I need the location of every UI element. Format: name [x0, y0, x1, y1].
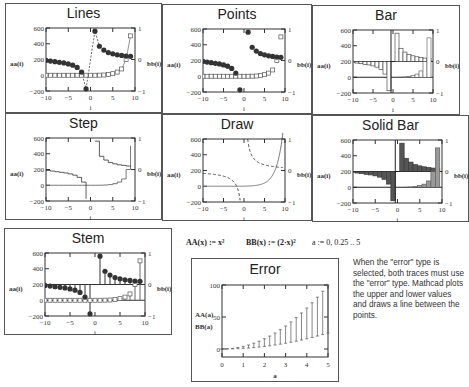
svg-text:1: 1 — [436, 27, 440, 35]
svg-text:0: 0 — [40, 297, 44, 305]
svg-text:5: 5 — [418, 206, 422, 214]
svg-text:600: 600 — [33, 250, 44, 258]
svg-text:a: a — [273, 372, 277, 380]
svg-text:200: 200 — [341, 58, 352, 66]
svg-text:0: 0 — [41, 72, 45, 80]
error-type-note: When the "error" type is selected, both … — [353, 258, 465, 321]
svg-text:1: 1 — [138, 135, 142, 143]
range-definition[interactable]: a := 0, 0.25 .. 5 — [312, 238, 360, 247]
svg-text:−1: −1 — [445, 200, 453, 208]
svg-text:−10: −10 — [198, 95, 209, 103]
step-plot[interactable]: 6004002000−20010−1−10−50510iaa(i)bb(i) — [6, 114, 163, 221]
svg-text:100: 100 — [210, 282, 221, 290]
svg-text:0: 0 — [288, 57, 292, 65]
svg-text:3: 3 — [284, 361, 288, 369]
draw-plot-panel[interactable]: Draw 6004002000−20010−1−10−50510iaa(i)bb… — [162, 114, 312, 221]
legend-bb: bb(i) — [147, 170, 162, 178]
svg-text:50: 50 — [213, 314, 221, 322]
bb-definition[interactable]: BB(x) := (2·x)² — [246, 238, 296, 247]
svg-text:10: 10 — [430, 96, 438, 104]
svg-text:0: 0 — [41, 182, 45, 190]
stem-plot-panel[interactable]: Stem 6004002000−20010−1−10−50510iaa(i)bb… — [4, 228, 172, 335]
lines-plot[interactable]: 6004002000−20010−1−10−50510iaa(i)bb(i) — [6, 4, 163, 114]
svg-text:600: 600 — [191, 136, 202, 144]
svg-text:BB(a): BB(a) — [195, 323, 213, 331]
svg-text:−1: −1 — [288, 89, 296, 97]
svg-text:200: 200 — [191, 167, 202, 175]
svg-text:−10: −10 — [40, 319, 51, 327]
draw-plot[interactable]: 6004002000−20010−1−10−50510iaa(i)bb(i) — [163, 115, 313, 222]
svg-text:200: 200 — [34, 56, 45, 64]
legend-aa: aa(i) — [10, 170, 24, 178]
svg-text:0: 0 — [148, 281, 152, 289]
legend-bb: bb(i) — [157, 285, 172, 293]
svg-text:5: 5 — [111, 204, 115, 212]
svg-text:0: 0 — [217, 346, 221, 354]
svg-text:0: 0 — [242, 95, 246, 103]
svg-text:400: 400 — [341, 152, 352, 160]
aa-definition[interactable]: AA(x) := x² — [186, 238, 225, 247]
legend-aa: aa(i) — [9, 285, 23, 293]
svg-text:AA(a): AA(a) — [195, 311, 214, 319]
svg-text:0: 0 — [220, 361, 224, 369]
svg-text:0: 0 — [89, 94, 93, 102]
svg-text:600: 600 — [191, 26, 202, 34]
svg-text:5: 5 — [111, 94, 115, 102]
svg-text:600: 600 — [341, 137, 352, 145]
svg-text:200: 200 — [191, 57, 202, 65]
svg-text:5: 5 — [326, 361, 330, 369]
stem-plot[interactable]: 6004002000−20010−1−10−50510iaa(i)bb(i) — [5, 229, 173, 336]
x-axis-label: i — [90, 214, 92, 222]
solidbar-plot-panel[interactable]: Solid Bar 6004002000−20010−1−10−50510iaa… — [312, 115, 469, 222]
svg-text:0: 0 — [138, 166, 142, 174]
svg-text:400: 400 — [341, 42, 352, 50]
svg-text:0: 0 — [89, 204, 93, 212]
x-axis-label: i — [392, 106, 394, 114]
svg-text:1: 1 — [288, 26, 292, 34]
svg-text:−5: −5 — [65, 94, 73, 102]
plot-area: 6004002000−20010−1−10−50510i — [29, 250, 156, 338]
svg-text:5: 5 — [263, 205, 267, 213]
x-axis-label: i — [94, 329, 96, 337]
legend-aa: aa(i) — [317, 62, 331, 70]
svg-text:1: 1 — [138, 25, 142, 33]
solidbar-plot[interactable]: 6004002000−20010−1−10−50510iaa(i)bb(i) — [313, 116, 469, 223]
svg-text:−10: −10 — [41, 94, 52, 102]
legend-bb: bb(i) — [445, 62, 460, 70]
svg-text:10: 10 — [282, 95, 290, 103]
svg-text:4: 4 — [305, 361, 309, 369]
svg-text:1: 1 — [445, 137, 449, 145]
error-plot[interactable]: 100500012345aAA(a)BB(a) — [192, 259, 340, 383]
svg-text:600: 600 — [341, 27, 352, 35]
legend-aa: aa(i) — [167, 171, 181, 179]
step-plot-panel[interactable]: Step 6004002000−20010−1−10−50510iaa(i)bb… — [5, 113, 162, 220]
svg-text:−1: −1 — [436, 90, 444, 98]
svg-text:0: 0 — [445, 168, 449, 176]
points-plot-panel[interactable]: Points 6004002000−20010−1−10−50510iaa(i)… — [162, 4, 312, 114]
svg-text:−5: −5 — [369, 96, 377, 104]
x-axis-label: i — [243, 105, 245, 113]
svg-text:0: 0 — [93, 319, 97, 327]
svg-text:600: 600 — [34, 135, 45, 143]
svg-text:0: 0 — [391, 96, 395, 104]
bar-plot[interactable]: 6004002000−20010−1−10−50510iaa(i)bb(i) — [313, 6, 461, 116]
svg-text:0: 0 — [348, 184, 352, 192]
x-axis-label: i — [243, 215, 245, 223]
svg-text:−1: −1 — [288, 199, 296, 207]
legend-bb: bb(i) — [147, 60, 162, 68]
svg-text:10: 10 — [439, 206, 447, 214]
lines-plot-panel[interactable]: Lines 6004002000−20010−1−10−50510iaa(i)b… — [5, 3, 162, 113]
svg-text:1: 1 — [148, 250, 152, 258]
legend-aa: aa(i) — [10, 60, 24, 68]
x-axis-label: i — [397, 216, 399, 224]
svg-text:600: 600 — [34, 25, 45, 33]
svg-text:−5: −5 — [65, 204, 73, 212]
error-plot-panel[interactable]: Error 100500012345aAA(a)BB(a) — [191, 258, 339, 382]
svg-text:−5: −5 — [372, 206, 380, 214]
bar-plot-panel[interactable]: Bar 6004002000−20010−1−10−50510iaa(i)bb(… — [312, 5, 460, 115]
svg-text:5: 5 — [263, 95, 267, 103]
svg-text:−10: −10 — [348, 206, 359, 214]
svg-text:−1: −1 — [138, 198, 146, 206]
svg-text:200: 200 — [34, 166, 45, 174]
points-plot[interactable]: 6004002000−20010−1−10−50510iaa(i)bb(i) — [163, 5, 313, 115]
